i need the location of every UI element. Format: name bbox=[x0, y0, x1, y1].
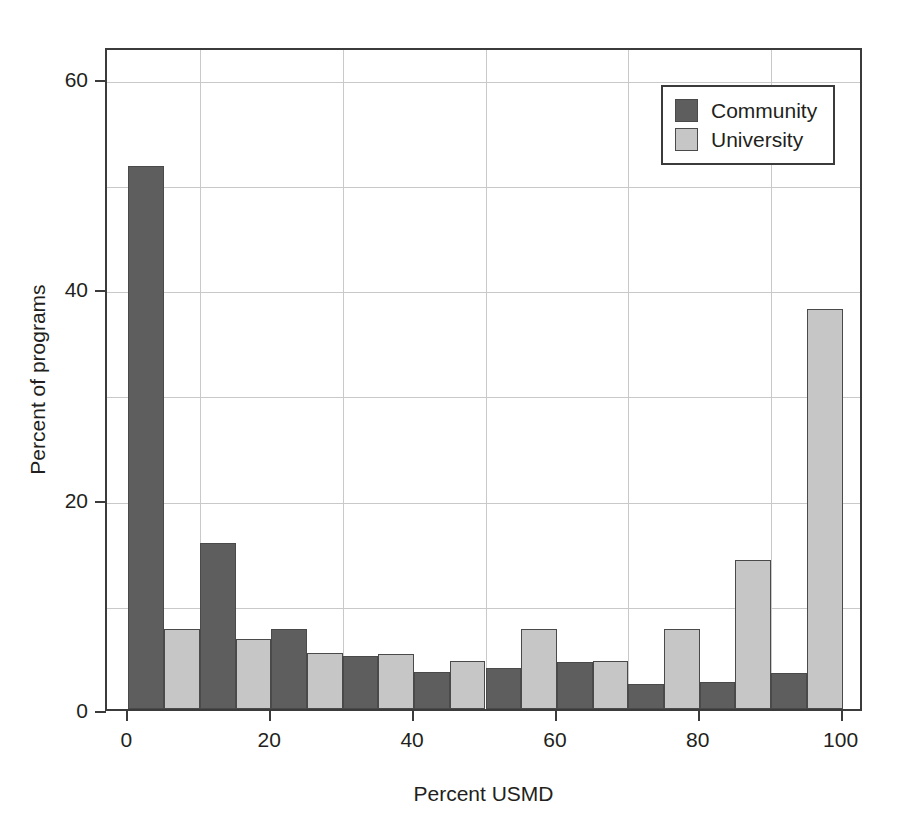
university-swatch-icon bbox=[675, 128, 698, 151]
gridline-vertical bbox=[486, 50, 487, 709]
y-tick-mark bbox=[95, 501, 106, 503]
x-tick-mark bbox=[555, 711, 557, 721]
y-tick-mark bbox=[95, 711, 106, 713]
gridline-horizontal bbox=[107, 397, 860, 398]
legend: Community University bbox=[661, 85, 835, 165]
y-tick-label: 0 bbox=[42, 699, 88, 723]
y-tick-label: 40 bbox=[42, 278, 88, 302]
bar-university-10-20 bbox=[236, 639, 272, 710]
histogram-figure: Percent of programs 0204060 Percent USMD… bbox=[0, 0, 907, 832]
bar-community-40-50 bbox=[414, 672, 450, 709]
y-tick-label: 60 bbox=[42, 68, 88, 92]
bar-community-60-70 bbox=[557, 662, 593, 709]
legend-entry-university: University bbox=[675, 125, 817, 154]
y-tick-mark bbox=[95, 290, 106, 292]
bar-university-70-80 bbox=[664, 629, 700, 709]
bar-community-80-90 bbox=[700, 682, 736, 709]
x-tick-label: 100 bbox=[801, 728, 881, 752]
x-tick-label: 40 bbox=[372, 728, 452, 752]
bar-community-20-30 bbox=[271, 629, 307, 709]
gridline-vertical bbox=[628, 50, 629, 709]
x-tick-mark bbox=[269, 711, 271, 721]
x-tick-mark bbox=[841, 711, 843, 721]
y-tick-label: 20 bbox=[42, 489, 88, 513]
gridline-vertical bbox=[343, 50, 344, 709]
bar-university-60-70 bbox=[593, 661, 629, 709]
legend-label-university: University bbox=[711, 128, 803, 152]
bar-university-50-60 bbox=[521, 629, 557, 709]
x-tick-label: 80 bbox=[658, 728, 738, 752]
gridline-horizontal bbox=[107, 292, 860, 293]
bar-community-0-10 bbox=[128, 166, 164, 709]
bar-university-40-50 bbox=[450, 661, 486, 709]
bar-university-30-40 bbox=[378, 654, 414, 709]
community-swatch-icon bbox=[675, 99, 698, 122]
bar-university-90-100 bbox=[807, 309, 843, 709]
x-tick-mark bbox=[698, 711, 700, 721]
gridline-horizontal bbox=[107, 82, 860, 83]
gridline-horizontal bbox=[107, 503, 860, 504]
bar-community-90-100 bbox=[771, 673, 807, 709]
x-tick-label: 0 bbox=[86, 728, 166, 752]
y-tick-mark bbox=[95, 80, 106, 82]
y-axis-ticks: 0204060 bbox=[32, 0, 88, 832]
x-tick-mark bbox=[412, 711, 414, 721]
bar-community-50-60 bbox=[486, 668, 522, 709]
x-tick-mark bbox=[126, 711, 128, 721]
x-axis-title: Percent USMD bbox=[105, 782, 862, 806]
bar-community-10-20 bbox=[200, 543, 236, 709]
bar-community-70-80 bbox=[628, 684, 664, 709]
bar-university-20-30 bbox=[307, 653, 343, 709]
x-tick-label: 20 bbox=[229, 728, 309, 752]
bar-university-0-10 bbox=[164, 629, 200, 709]
x-tick-label: 60 bbox=[515, 728, 595, 752]
bar-university-80-90 bbox=[735, 560, 771, 709]
legend-entry-community: Community bbox=[675, 96, 817, 125]
bar-community-30-40 bbox=[343, 656, 379, 709]
legend-label-community: Community bbox=[711, 99, 817, 123]
gridline-horizontal bbox=[107, 187, 860, 188]
